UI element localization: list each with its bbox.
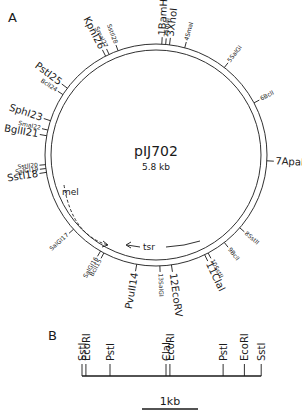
site-label: 9BclI: [227, 246, 242, 262]
site-tick: [62, 84, 68, 88]
site-label: SalGI17: [48, 231, 70, 252]
site-tick: [98, 251, 101, 256]
site-tick: [170, 38, 171, 45]
linear-site-label: PstI: [218, 343, 229, 361]
site-tick: [102, 50, 105, 56]
plasmid-figure: A pIJ702 5.8 kb 1BamHI2SmaI3XhoI4SmaI5Sa…: [0, 0, 302, 417]
site-label: 3XhoI: [165, 7, 179, 37]
site-tick: [185, 42, 187, 48]
site-tick: [240, 228, 245, 232]
site-tick: [166, 38, 167, 44]
site-label: PvuII14: [123, 272, 140, 310]
site-tick: [136, 264, 137, 271]
site-tick: [208, 253, 211, 258]
site-tick: [205, 255, 208, 261]
linear-site-label: EcoRI: [81, 333, 92, 361]
site-label: 12EcoRV: [168, 273, 185, 318]
plasmid-size: 5.8 kb: [142, 162, 170, 172]
plasmid-name: pIJ702: [134, 143, 178, 159]
site-tick: [254, 100, 259, 103]
site-tick: [224, 63, 228, 68]
site-tick: [42, 129, 48, 130]
site-tick: [224, 242, 228, 247]
site-label: 7ApaI: [275, 155, 302, 167]
site-label: 11ClaI: [204, 260, 228, 293]
linear-site-label: SstI: [256, 343, 267, 361]
site-label: 5SalGI: [226, 43, 244, 63]
site-tick: [39, 172, 46, 173]
site-tick: [39, 165, 45, 166]
site-label: 8SstII: [244, 229, 261, 245]
linear-site-label: EcoRI: [239, 333, 250, 361]
tsr-gene-line: [166, 241, 200, 247]
site-tick: [116, 45, 118, 51]
site-tick: [101, 253, 104, 258]
site-tick: [44, 119, 51, 121]
mel-gene-label: mel: [62, 187, 79, 197]
tsr-gene-label: tsr: [143, 242, 155, 252]
site-tick: [69, 229, 73, 233]
site-label: 4SmaI: [182, 21, 194, 41]
site-label: 13SalGI: [157, 273, 165, 297]
site-tick: [171, 265, 172, 272]
scale-bar-label: 1kb: [160, 395, 180, 408]
panel-b-label: B: [48, 328, 57, 343]
site-tick: [58, 91, 63, 94]
linear-map: SstIEcoRIPstIClaIEcoRIPstIEcoRISstI1kb: [77, 333, 267, 409]
site-tick: [40, 135, 47, 136]
site-label: 6BclI: [259, 89, 275, 102]
site-tick: [107, 49, 110, 54]
panel-a-label: A: [8, 10, 17, 25]
linear-site-label: PstI: [105, 343, 116, 361]
site-tick: [40, 169, 46, 170]
linear-site-label: EcoRI: [165, 333, 176, 361]
